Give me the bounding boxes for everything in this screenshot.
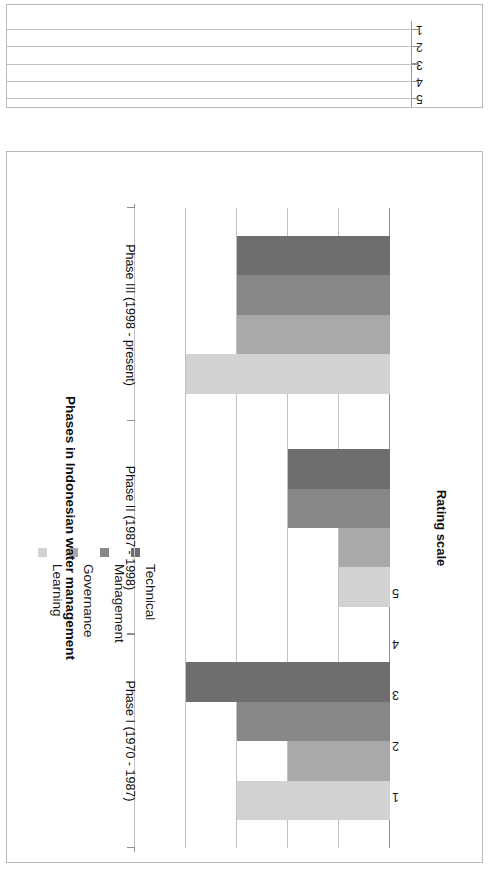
partial-chart-y-tick-label: 3 xyxy=(416,58,423,72)
x-axis-title-text: Phases in Indonesian water management xyxy=(63,396,78,660)
main-chart-panel: TechnicalManagementGovernanceLearning Ra… xyxy=(6,151,483,863)
category-label-text: Phase I (1970 - 1987) xyxy=(123,681,137,802)
y-axis-title-text: Rating scale xyxy=(434,490,449,567)
partial-chart-y-tick-label: 5 xyxy=(416,92,423,106)
partial-chart-gridline xyxy=(7,64,412,65)
gridline xyxy=(185,208,186,848)
partial-chart-gridline xyxy=(7,98,412,99)
partial-chart-tick xyxy=(412,63,419,64)
rotated-scan-canvas: Rating scale 12345 TechnicalManagementGo… xyxy=(0,0,489,871)
partial-chart-y-tick-label: 1 xyxy=(416,23,423,37)
bar-management-cat1 xyxy=(237,702,390,741)
partial-chart-tick xyxy=(412,98,419,99)
partial-chart-y-tick-label: 4 xyxy=(416,75,423,89)
bar-governance-cat3 xyxy=(237,315,390,354)
partial-chart-tick xyxy=(412,81,419,82)
bar-technical-cat2 xyxy=(288,449,390,488)
bar-learning-cat3 xyxy=(186,354,390,393)
y-tick-label: 3 xyxy=(392,688,399,702)
partial-chart-tick xyxy=(412,46,419,47)
partial-chart-tick xyxy=(412,29,419,30)
bar-learning-cat1 xyxy=(237,781,390,820)
category-label-text: Phase III (1998 - present) xyxy=(123,244,137,386)
bar-technical-cat3 xyxy=(237,236,390,275)
y-axis-tick-labels: 12345 xyxy=(392,208,416,848)
bar-management-cat3 xyxy=(237,275,390,314)
plot-area xyxy=(135,208,390,848)
partial-chart-gridline xyxy=(7,29,412,30)
y-axis-title: Rating scale xyxy=(430,208,452,848)
bar-learning-cat2 xyxy=(339,567,390,606)
partial-chart-gridline xyxy=(7,81,412,82)
category-label-text: Phase II (1987 - 1998) xyxy=(123,466,137,590)
y-tick-label: 2 xyxy=(392,739,399,753)
legend-swatch-icon xyxy=(38,548,47,557)
partial-chart-y-tick-labels: 12345 xyxy=(414,3,442,107)
y-tick-label: 5 xyxy=(392,586,399,600)
bar-management-cat2 xyxy=(288,489,390,528)
y-tick-label: 1 xyxy=(392,790,399,804)
partial-chart-panel: Rating scale 12345 xyxy=(6,4,483,108)
x-axis-title: Phases in Indonesian water management xyxy=(58,208,82,848)
y-tick-label: 4 xyxy=(392,637,399,651)
bar-governance-cat1 xyxy=(288,741,390,780)
bar-governance-cat2 xyxy=(339,528,390,567)
legend-item-learning: Learning xyxy=(20,548,50,848)
partial-chart-y-tick-label: 2 xyxy=(416,40,423,54)
bar-technical-cat1 xyxy=(186,662,390,701)
partial-chart-gridline xyxy=(7,46,412,47)
